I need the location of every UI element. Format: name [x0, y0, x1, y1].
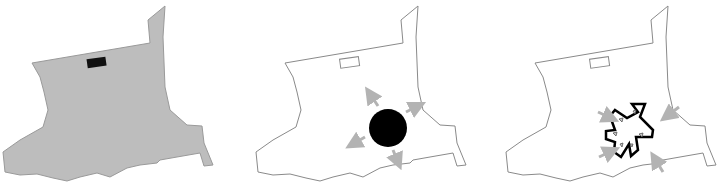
- panel-1-site-filled: [3, 6, 213, 181]
- black-circle-core: [369, 109, 407, 147]
- site-shape-outline: [506, 6, 716, 181]
- panel-3-inward-star: [506, 6, 716, 181]
- diagram-svg: [0, 0, 722, 188]
- site-shape-filled: [3, 6, 213, 181]
- diagram-stage: [0, 0, 722, 188]
- site-shape-outline: [256, 6, 466, 181]
- panel-2-outward-expansion: [256, 6, 466, 181]
